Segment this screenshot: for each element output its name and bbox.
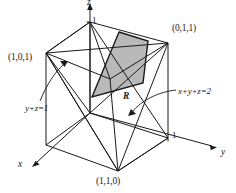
figure-3d-cube-region: x y z 1 1 (1,0,1) (0,1,1) (1,1,0) y+z=1 … (0, 0, 236, 193)
y-axis-arrowhead (210, 145, 217, 150)
axis-label-x: x (18, 160, 22, 170)
y-tick-label-1: 1 (172, 131, 176, 140)
plane-xyz2-edge-a (46, 43, 168, 53)
axis-label-y: y (221, 148, 225, 158)
figure-canvas (0, 0, 236, 193)
vertex-label-011: (0,1,1) (172, 24, 196, 34)
plane-label-xyz2: x+y+z=2 (178, 87, 211, 96)
axis-label-z: z (87, 0, 91, 8)
vertex-label-101: (1,0,1) (8, 53, 32, 63)
x-axis-arrowhead (32, 161, 40, 167)
plane-yz1-edge-a (46, 22, 90, 53)
leader-arrow-xyz2-curve (132, 90, 176, 112)
y-axis-line (90, 113, 212, 146)
cube-bottom-face (46, 113, 168, 171)
shaded-region-R (92, 32, 148, 97)
cube-vertical-edge-110 (110, 79, 118, 171)
leader-arrow-yz1-curve (40, 64, 64, 101)
plane-yz1-edge-c (118, 138, 168, 171)
diagonal-top-right (90, 22, 110, 79)
z-tick-label-1: 1 (92, 16, 96, 25)
plane-label-yz1: y+z=1 (25, 104, 48, 113)
x-axis-line (36, 113, 90, 163)
leader-arrow-xyz2-head (128, 109, 136, 116)
leader-arrow-xyz2 (128, 90, 176, 116)
vertex-label-110: (1,1,0) (96, 177, 120, 187)
region-label-R: R (123, 92, 129, 102)
